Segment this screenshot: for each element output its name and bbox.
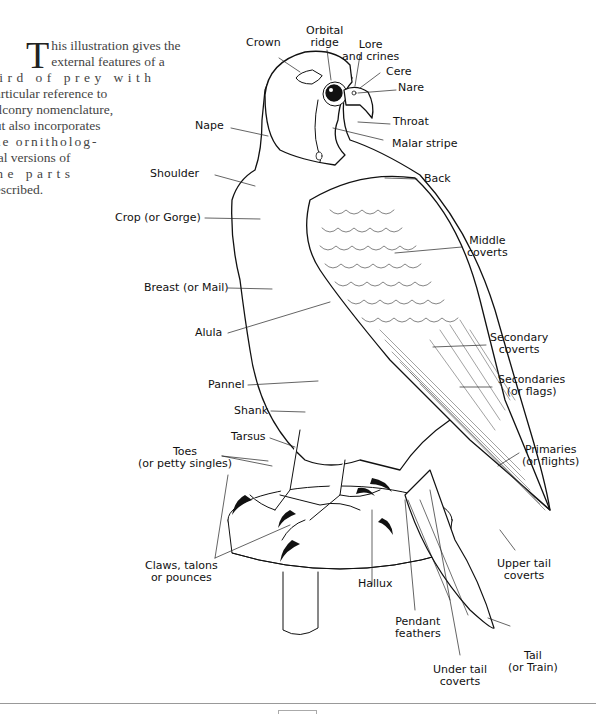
label-orbital-ridge: Orbitalridge bbox=[306, 25, 343, 49]
label-upper-tail-coverts: Upper tailcoverts bbox=[497, 558, 551, 582]
label-under-tail-coverts: Under tailcoverts bbox=[433, 664, 487, 688]
label-back: Back bbox=[424, 173, 451, 185]
label-shank: Shank bbox=[234, 405, 268, 417]
label-malar-stripe: Malar stripe bbox=[392, 138, 457, 150]
label-secondary-coverts: Secondarycoverts bbox=[490, 332, 548, 356]
label-primaries: Primaries(or flights) bbox=[522, 444, 579, 468]
label-middle-coverts: Middlecoverts bbox=[467, 235, 508, 259]
label-claws: Claws, talonsor pounces bbox=[145, 560, 218, 584]
label-breast: Breast (or Mail) bbox=[144, 282, 229, 294]
label-hallux: Hallux bbox=[358, 578, 393, 590]
label-throat: Throat bbox=[393, 116, 429, 128]
label-nape: Nape bbox=[195, 120, 224, 132]
label-nare: Nare bbox=[398, 82, 424, 94]
page-number-box bbox=[278, 710, 317, 714]
label-toes: Toes(or petty singles) bbox=[138, 446, 232, 470]
label-cere: Cere bbox=[386, 66, 412, 78]
footer-rule bbox=[0, 703, 596, 704]
label-crop: Crop (or Gorge) bbox=[115, 212, 201, 224]
label-pendant-feathers: Pendantfeathers bbox=[395, 616, 441, 640]
label-pannel: Pannel bbox=[208, 379, 245, 391]
label-alula: Alula bbox=[195, 327, 222, 339]
label-tail: Tail(or Train) bbox=[508, 650, 558, 674]
label-lore-and-crines: Loreand crines bbox=[342, 39, 399, 63]
label-secondaries: Secondaries(or flags) bbox=[498, 374, 565, 398]
label-crown: Crown bbox=[246, 37, 281, 49]
label-shoulder: Shoulder bbox=[150, 168, 199, 180]
label-tarsus: Tarsus bbox=[231, 431, 266, 443]
